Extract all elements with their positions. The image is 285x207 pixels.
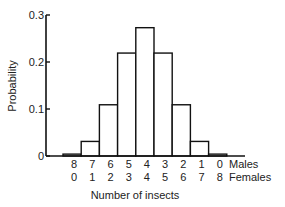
- x-tick-label-males: 6: [107, 158, 113, 170]
- y-tick-label: 0.2: [29, 56, 44, 68]
- row-label-males: Males: [229, 158, 259, 170]
- x-tick-label-males: 8: [71, 158, 77, 170]
- x-axis-title: Number of insects: [91, 189, 180, 201]
- bars-group: [63, 28, 227, 156]
- y-tick-label: 0: [38, 150, 44, 162]
- x-tick-label-females: 8: [217, 171, 223, 183]
- x-tick-label-males: 0: [217, 158, 223, 170]
- category-labels-group: 876543210Males012345678Females: [71, 158, 272, 183]
- bar-7M/1F: [81, 141, 99, 156]
- x-tick-label-females: 4: [144, 171, 150, 183]
- x-tick-label-males: 3: [162, 158, 168, 170]
- bar-5M/3F: [118, 53, 136, 156]
- x-tick-label-males: 7: [89, 158, 95, 170]
- x-tick-label-females: 5: [162, 171, 168, 183]
- y-tick-label: 0.3: [29, 9, 44, 21]
- y-axis-title: Probability: [6, 60, 18, 112]
- x-tick-label-males: 4: [144, 158, 150, 170]
- x-tick-label-females: 3: [126, 171, 132, 183]
- y-tick-label: 0.1: [29, 103, 44, 115]
- x-tick-label-males: 5: [126, 158, 132, 170]
- bar-2M/6F: [172, 105, 190, 156]
- y-ticks-group: 00.10.20.3: [29, 9, 50, 162]
- bar-1M/7F: [190, 141, 208, 156]
- x-tick-label-females: 1: [89, 171, 95, 183]
- row-label-females: Females: [229, 171, 272, 183]
- bar-3M/5F: [154, 53, 172, 156]
- probability-histogram: 00.10.20.3 876543210Males012345678Female…: [0, 0, 285, 207]
- x-tick-label-females: 6: [180, 171, 186, 183]
- bar-4M/4F: [136, 28, 154, 156]
- x-tick-label-females: 2: [107, 171, 113, 183]
- bar-6M/2F: [99, 105, 117, 156]
- x-tick-label-females: 7: [198, 171, 204, 183]
- x-tick-label-males: 1: [198, 158, 204, 170]
- x-tick-label-males: 2: [180, 158, 186, 170]
- x-tick-label-females: 0: [71, 171, 77, 183]
